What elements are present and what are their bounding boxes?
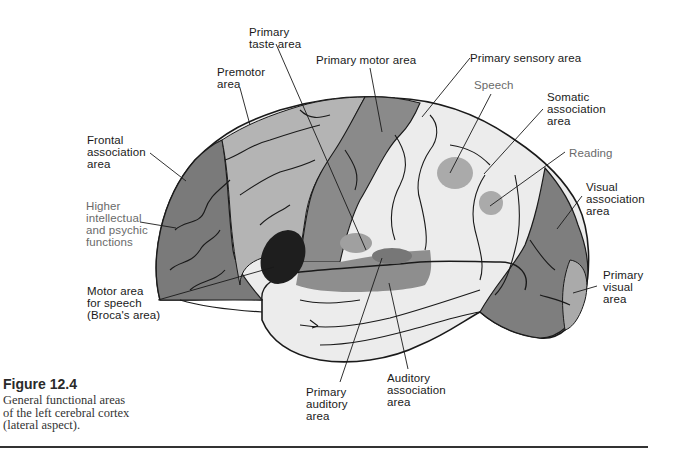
label-primary-taste-area: Primary taste area [249, 26, 301, 50]
primary-auditory-spot [372, 248, 412, 264]
figure-title: Figure 12.4 [3, 376, 77, 392]
label-frontal-association-area: Frontal association area [87, 134, 146, 170]
label-visual-association-area: Visual association area [586, 181, 645, 217]
label-auditory-association-area: Auditory association area [387, 372, 446, 408]
label-premotor-area: Premotor area [217, 66, 265, 90]
label-primary-sensory-area: Primary sensory area [470, 52, 581, 64]
label-primary-auditory-area: Primary auditory area [306, 386, 348, 422]
label-higher-intellectual-functions: Higher intellectual and psychic function… [86, 200, 148, 248]
label-somatic-association-area: Somatic association area [547, 91, 606, 127]
speech-spot [437, 157, 473, 189]
label-reading: Reading [569, 147, 613, 159]
label-broca-area: Motor area for speech (Broca's area) [87, 285, 160, 321]
figure-caption: General functional areas of the left cer… [3, 394, 129, 432]
reading-spot [479, 191, 503, 215]
label-speech: Speech [474, 79, 514, 91]
bottom-rule [0, 446, 648, 448]
primary-visual-region [563, 260, 587, 330]
label-primary-visual-area: Primary visual area [603, 269, 643, 305]
label-primary-motor-area: Primary motor area [316, 54, 416, 66]
primary-taste-spot [340, 233, 372, 253]
